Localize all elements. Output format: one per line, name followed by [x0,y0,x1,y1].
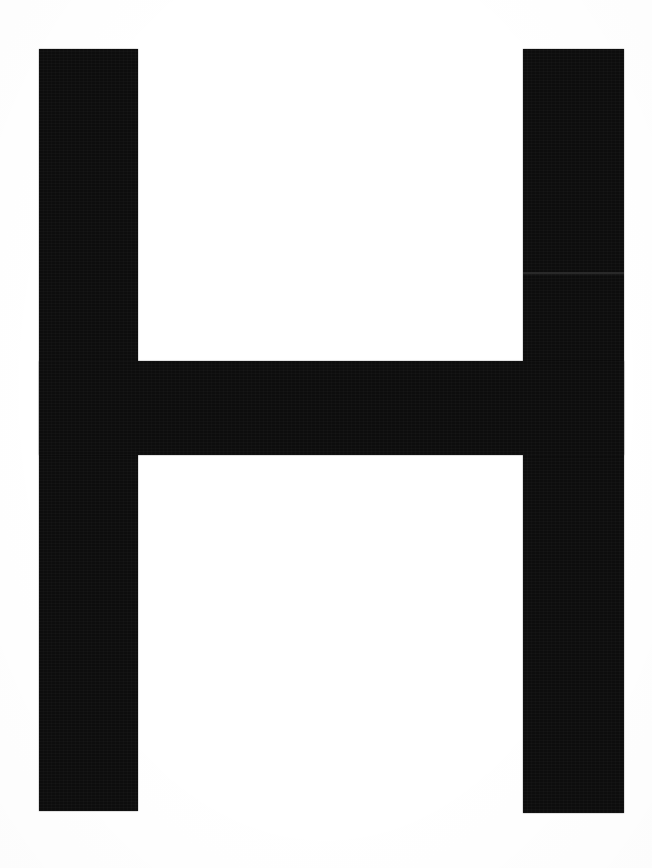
glyph-stroke-crossbar [39,361,624,455]
capital-letter-h-glyph [0,0,652,868]
image-canvas [0,0,652,868]
scan-seam-artifact [523,272,624,274]
